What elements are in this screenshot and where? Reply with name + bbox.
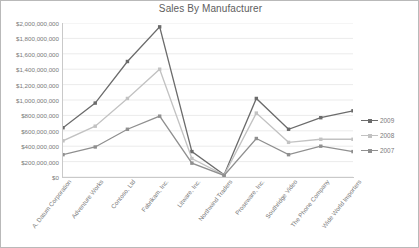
x-axis: A. Datum CorporationAdventure WorksConto…	[63, 178, 353, 248]
legend-label: 2008	[378, 132, 394, 139]
data-point-marker	[255, 97, 258, 100]
y-axis-tick-label: $2,000,000,000	[16, 20, 59, 27]
y-axis-tick-label: $1,800,000,000	[16, 35, 59, 42]
data-point-marker	[63, 139, 65, 142]
legend-label: 2007	[378, 147, 394, 154]
data-point-marker	[222, 174, 225, 177]
data-point-marker	[190, 161, 193, 164]
data-point-marker	[287, 128, 290, 131]
y-axis-tick-label: $400,000,000	[21, 143, 59, 150]
y-axis: $2,000,000,000$1,800,000,000$1,600,000,0…	[1, 23, 59, 177]
data-point-marker	[319, 116, 322, 119]
chart-container: Sales By Manufacturer $2,000,000,000$1,8…	[0, 0, 419, 248]
legend-item-2009[interactable]: 2009	[361, 113, 419, 128]
legend-swatch-icon	[361, 132, 378, 139]
data-point-marker	[255, 111, 258, 114]
data-point-marker	[190, 157, 193, 160]
y-axis-tick-label: $1,000,000,000	[16, 97, 59, 104]
legend-item-2007[interactable]: 2007	[361, 143, 419, 158]
legend-swatch-icon	[361, 147, 378, 154]
legend-item-2008[interactable]: 2008	[361, 128, 419, 143]
data-point-marker	[158, 25, 161, 28]
data-point-marker	[126, 128, 129, 131]
chart-title: Sales By Manufacturer	[1, 3, 419, 14]
y-axis-tick-label: $200,000,000	[21, 158, 59, 165]
data-point-marker	[126, 97, 129, 100]
data-point-marker	[94, 124, 97, 127]
y-axis-tick-label: $1,200,000,000	[16, 81, 59, 88]
y-axis-tick-label: $800,000,000	[21, 112, 59, 119]
legend-label: 2009	[378, 117, 394, 124]
data-point-marker	[94, 101, 97, 104]
y-axis-tick-label: $0	[52, 174, 59, 181]
y-axis-tick-label: $600,000,000	[21, 127, 59, 134]
data-point-marker	[158, 68, 161, 71]
data-point-marker	[63, 153, 65, 156]
data-point-marker	[158, 114, 161, 117]
data-point-marker	[287, 141, 290, 144]
legend-swatch-icon	[361, 117, 378, 124]
data-point-marker	[126, 60, 129, 63]
chart-legend: 200920082007	[361, 113, 419, 158]
data-point-marker	[351, 109, 353, 112]
plot-area	[63, 23, 353, 177]
series-line-2009	[63, 27, 353, 175]
series-lines	[63, 23, 353, 177]
y-axis-tick-label: $1,600,000,000	[16, 50, 59, 57]
y-axis-tick-label: $1,400,000,000	[16, 66, 59, 73]
data-point-marker	[63, 126, 65, 129]
